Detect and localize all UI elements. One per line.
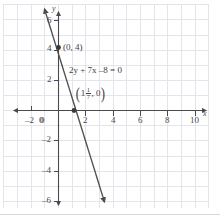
point-label-x-intercept: ( 1 1 7 , 0 ) <box>75 85 106 102</box>
x-axis-label: x <box>203 110 207 118</box>
x-tick-label-10: 10 <box>190 116 199 125</box>
x-tick-label-2: 2 <box>83 116 88 125</box>
y-tick-label-2: 2 <box>47 75 52 84</box>
y-tick-label-4: 4 <box>47 44 52 53</box>
mixed-number: 1 1 7 <box>81 87 92 101</box>
y-tick-label--2: –2 <box>42 135 51 144</box>
plot-area: –2 0 2 4 6 8 10 6 4 2 0 –2 –4 –6 y x (0,… <box>0 0 220 209</box>
fraction-one-seventh: 1 7 <box>86 87 91 101</box>
x-tick-label--2: –2 <box>25 116 34 125</box>
point-label-tail: , 0 <box>91 89 100 98</box>
y-tick-label-6: 6 <box>47 16 52 25</box>
x-tick-label-4: 4 <box>111 116 116 125</box>
mixed-whole: 1 <box>81 89 86 98</box>
x-tick-label-8: 8 <box>165 116 170 125</box>
y-tick-label-0: 0 <box>40 116 45 125</box>
line-2y-plus-7x-minus-8 <box>0 0 220 209</box>
coordinate-plane-figure: –2 0 2 4 6 8 10 6 4 2 0 –2 –4 –6 y x (0,… <box>0 0 220 221</box>
point-marker-x-intercept <box>72 108 77 113</box>
paren-open: ( <box>76 85 80 102</box>
y-axis-label: y <box>52 5 56 13</box>
paren-close: ) <box>101 85 105 102</box>
x-tick-label-6: 6 <box>138 116 143 125</box>
equation-label: 2y + 7x –8 = 0 <box>69 66 122 75</box>
point-label-y-intercept: (0, 4) <box>63 43 83 52</box>
y-tick-label--6: –6 <box>42 196 51 205</box>
footer-divider <box>0 214 220 215</box>
fraction-denominator: 7 <box>86 94 91 101</box>
point-marker-y-intercept <box>56 45 61 50</box>
y-tick-label--4: –4 <box>42 166 51 175</box>
